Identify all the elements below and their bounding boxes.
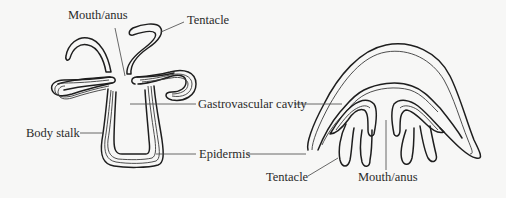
polyp-illustration — [52, 24, 196, 167]
label-medusa-mouth-anus: Mouth/anus — [358, 170, 418, 184]
label-medusa-tentacle: Tentacle — [266, 170, 308, 184]
medusa-bell-outer — [308, 44, 481, 158]
label-gastrovascular-cavity: Gastrovascular cavity — [198, 97, 307, 111]
medusa-tentacle-3 — [401, 128, 414, 164]
label-polyp-tentacle: Tentacle — [187, 13, 229, 27]
polyp-cavity-wall — [114, 90, 150, 154]
leader-mouth-anus-left — [115, 28, 125, 76]
label-polyp-mouth-anus: Mouth/anus — [68, 8, 128, 22]
medusa-subumbrella — [318, 83, 462, 150]
medusa-right-oral-arm — [392, 100, 444, 136]
medusa-tentacle-4 — [420, 126, 436, 161]
label-body-stalk: Body stalk — [26, 126, 80, 140]
medusa-illustration — [308, 44, 481, 166]
leader-tentacle-right — [308, 158, 338, 176]
polyp-left-tentacle — [66, 38, 111, 72]
leader-tentacle-left — [161, 22, 184, 32]
medusa-tentacle-1 — [339, 124, 354, 166]
polyp-right-tentacle — [127, 24, 162, 74]
label-epidermis: Epidermis — [199, 147, 250, 161]
